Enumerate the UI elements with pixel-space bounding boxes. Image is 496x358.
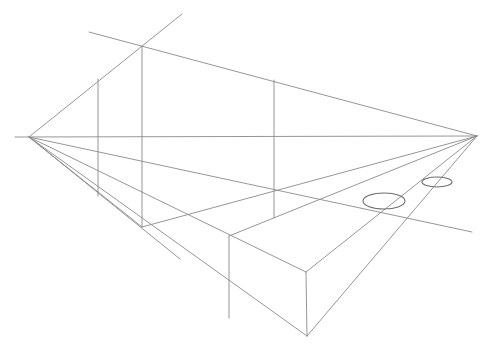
right-vp-to-box-top-front: [306, 136, 477, 272]
right-vp-to-box-corner: [142, 136, 477, 227]
ellipse-small: [422, 177, 452, 187]
left-vp-diagonal-up: [29, 14, 182, 137]
box-vertical-front: [306, 272, 307, 336]
top-line-to-right-vp: [89, 32, 477, 136]
left-vp-fan-line-4: [29, 137, 142, 227]
drawing-canvas: Two-point perspective construction sketc…: [0, 0, 496, 358]
horizon-line: [15, 136, 477, 137]
perspective-drawing: [0, 0, 496, 358]
construction-lines: [15, 14, 477, 336]
left-vp-to-box-top-right: [29, 137, 306, 272]
ellipse-large: [363, 193, 405, 209]
right-vp-to-bottom: [307, 136, 477, 336]
right-vp-to-box-top: [229, 136, 477, 236]
